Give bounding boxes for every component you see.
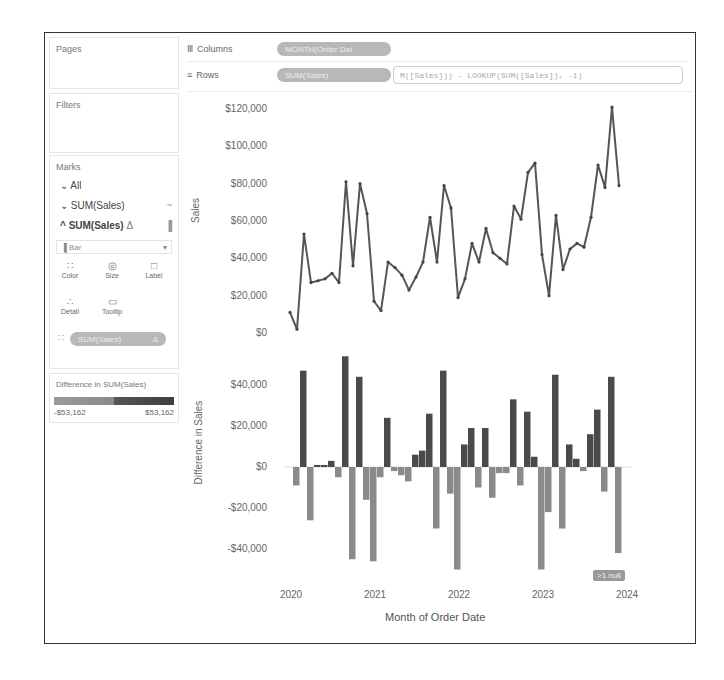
sales-point[interactable]	[603, 186, 606, 189]
diff-bar[interactable]	[524, 412, 531, 467]
diff-bar[interactable]	[419, 451, 426, 467]
sales-point[interactable]	[470, 242, 473, 245]
sales-point[interactable]	[435, 260, 438, 263]
sales-point[interactable]	[582, 246, 585, 249]
sales-point[interactable]	[512, 204, 515, 207]
diff-bar[interactable]	[356, 377, 363, 467]
sales-point[interactable]	[330, 272, 333, 275]
charts-svg	[0, 0, 724, 680]
diff-bar[interactable]	[349, 467, 356, 559]
diff-bar[interactable]	[370, 467, 377, 561]
diff-bar[interactable]	[426, 414, 433, 467]
sales-point[interactable]	[421, 260, 424, 263]
diff-bar[interactable]	[405, 467, 412, 481]
diff-bar[interactable]	[440, 371, 447, 467]
diff-bar[interactable]	[335, 467, 342, 477]
sales-point[interactable]	[526, 171, 529, 174]
sales-point[interactable]	[498, 257, 501, 260]
diff-bar[interactable]	[300, 371, 307, 467]
sales-point[interactable]	[540, 253, 543, 256]
sales-point[interactable]	[596, 163, 599, 166]
diff-bar[interactable]	[566, 444, 573, 467]
diff-bar[interactable]	[321, 465, 328, 467]
sales-point[interactable]	[484, 227, 487, 230]
sales-point[interactable]	[309, 281, 312, 284]
sales-point[interactable]	[463, 277, 466, 280]
diff-bar[interactable]	[391, 467, 398, 471]
diff-bar[interactable]	[384, 418, 391, 467]
diff-bar[interactable]	[601, 467, 608, 492]
sales-point[interactable]	[407, 288, 410, 291]
sales-point[interactable]	[449, 206, 452, 209]
sales-point[interactable]	[288, 311, 291, 314]
sales-point[interactable]	[400, 274, 403, 277]
sales-point[interactable]	[344, 180, 347, 183]
diff-bar[interactable]	[496, 467, 503, 473]
diff-bar[interactable]	[545, 467, 552, 512]
sales-point[interactable]	[428, 216, 431, 219]
sales-point[interactable]	[442, 184, 445, 187]
sales-point[interactable]	[372, 300, 375, 303]
diff-bar[interactable]	[594, 410, 601, 467]
sales-point[interactable]	[323, 277, 326, 280]
sales-point[interactable]	[414, 275, 417, 278]
sales-point[interactable]	[393, 266, 396, 269]
sales-line[interactable]	[290, 107, 619, 329]
sales-point[interactable]	[568, 247, 571, 250]
diff-bar[interactable]	[433, 467, 440, 529]
diff-bar[interactable]	[363, 467, 370, 500]
diff-bar[interactable]	[510, 399, 517, 467]
diff-bar[interactable]	[377, 467, 384, 477]
sales-point[interactable]	[456, 296, 459, 299]
sales-point[interactable]	[386, 260, 389, 263]
sales-point[interactable]	[519, 218, 522, 221]
diff-bar[interactable]	[552, 375, 559, 467]
diff-bar[interactable]	[468, 428, 475, 467]
diff-bar[interactable]	[615, 467, 622, 553]
sales-point[interactable]	[316, 279, 319, 282]
sales-point[interactable]	[302, 232, 305, 235]
diff-bar[interactable]	[580, 467, 587, 471]
sales-point[interactable]	[365, 212, 368, 215]
diff-bar[interactable]	[573, 459, 580, 467]
sales-point[interactable]	[547, 294, 550, 297]
sales-point[interactable]	[337, 281, 340, 284]
diff-bar[interactable]	[559, 467, 566, 529]
sales-point[interactable]	[617, 184, 620, 187]
diff-bar[interactable]	[475, 467, 482, 488]
sales-point[interactable]	[589, 216, 592, 219]
diff-bar[interactable]	[608, 377, 615, 467]
diff-bar[interactable]	[314, 465, 321, 467]
diff-bar[interactable]	[412, 455, 419, 467]
diff-bar[interactable]	[447, 467, 454, 494]
diff-bar[interactable]	[454, 467, 461, 570]
sales-point[interactable]	[561, 268, 564, 271]
diff-bar[interactable]	[482, 428, 489, 467]
diff-bar[interactable]	[398, 467, 405, 475]
sales-point[interactable]	[575, 242, 578, 245]
sales-point[interactable]	[295, 328, 298, 331]
sales-point[interactable]	[554, 214, 557, 217]
diff-bar[interactable]	[342, 356, 349, 467]
diff-bar[interactable]	[538, 467, 545, 570]
diff-bar[interactable]	[517, 467, 524, 485]
sales-point[interactable]	[505, 262, 508, 265]
diff-bar[interactable]	[503, 467, 510, 473]
diff-bar[interactable]	[328, 461, 335, 467]
sales-point[interactable]	[351, 264, 354, 267]
diff-bar[interactable]	[461, 444, 468, 467]
sales-point[interactable]	[477, 260, 480, 263]
sales-point[interactable]	[358, 182, 361, 185]
diff-bar[interactable]	[307, 467, 314, 520]
sales-point[interactable]	[379, 309, 382, 312]
sales-point[interactable]	[533, 162, 536, 165]
diff-bar[interactable]	[531, 457, 538, 467]
sales-point[interactable]	[610, 106, 613, 109]
diff-bar[interactable]	[489, 467, 496, 498]
diff-bar[interactable]	[587, 434, 594, 467]
diff-bar[interactable]	[293, 467, 300, 485]
sales-point[interactable]	[491, 251, 494, 254]
